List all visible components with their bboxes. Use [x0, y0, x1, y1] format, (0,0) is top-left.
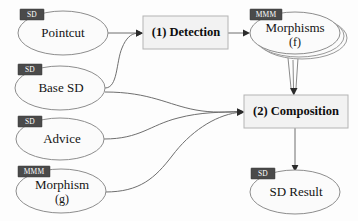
stereotype-tag-mmm: MMM	[18, 166, 50, 177]
stereotype-tag-sd: SD	[20, 9, 44, 20]
stereotype-tag-sd: SD	[18, 64, 42, 75]
edge-detection-to-morphisms	[228, 30, 250, 37]
tag-label: MMM	[256, 10, 277, 19]
node-label: (1) Detection	[152, 25, 220, 39]
node-morphism-g[interactable]: Morphism (g) MMM	[16, 166, 106, 213]
stereotype-tag-mmm: MMM	[250, 9, 282, 20]
edge-advice-to-composition	[104, 109, 244, 139]
stereotype-tag-sd: SD	[18, 116, 42, 127]
edge-composition-to-sdresult	[292, 128, 299, 172]
node-advice[interactable]: Advice SD	[16, 116, 104, 160]
edge-basesd-to-detection	[105, 30, 143, 88]
edge-path	[105, 33, 136, 88]
node-base-sd[interactable]: Base SD SD	[15, 64, 105, 110]
edge-path-right	[296, 58, 298, 88]
node-detection[interactable]: (1) Detection	[143, 16, 228, 49]
tag-label: SD	[27, 10, 37, 19]
edge-path	[105, 92, 237, 112]
tag-label: SD	[25, 117, 35, 126]
node-pointcut[interactable]: Pointcut SD	[18, 9, 108, 55]
node-sd-result[interactable]: SD Result SD	[250, 168, 340, 214]
node-label: SD Result	[269, 184, 322, 199]
edge-path	[105, 113, 237, 192]
diagram-canvas: Pointcut SD Base SD SD Advice SD	[0, 0, 358, 221]
edge-path-mid	[293, 60, 294, 88]
arrow-head-icon	[290, 88, 298, 96]
edge-morphisms-to-composition	[288, 58, 298, 96]
tag-label: MMM	[24, 167, 45, 176]
node-sublabel: (g)	[55, 192, 69, 206]
edge-morphismg-to-composition	[105, 109, 244, 192]
edge-path	[104, 112, 237, 139]
node-composition[interactable]: (2) Composition	[244, 95, 348, 128]
stereotype-tag-sd: SD	[251, 168, 275, 179]
edge-basesd-to-composition	[105, 92, 244, 115]
node-label: Morphism	[35, 177, 89, 192]
diagram-svg: Pointcut SD Base SD SD Advice SD	[0, 0, 358, 221]
tag-label: SD	[25, 65, 35, 74]
node-label: Base SD	[38, 80, 83, 95]
arrow-head-icon	[243, 30, 250, 37]
node-label: (2) Composition	[253, 104, 339, 118]
tag-label: SD	[258, 169, 268, 178]
arrow-head-icon	[136, 30, 143, 37]
node-label: Pointcut	[41, 25, 85, 40]
node-label: Advice	[43, 131, 81, 146]
node-label: Morphisms	[265, 20, 324, 35]
edge-path-left	[288, 58, 291, 88]
node-sublabel: (f)	[289, 35, 301, 49]
node-morphisms-f[interactable]: Morphisms (f) MMM	[250, 9, 347, 59]
